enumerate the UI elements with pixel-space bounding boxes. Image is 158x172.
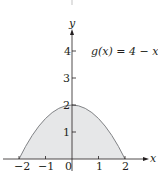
x-tick-label: 2 xyxy=(122,160,129,172)
function-label-main: g(x) = 4 − x xyxy=(91,45,158,58)
y-tick-label: 4 xyxy=(64,45,71,58)
function-label: g(x) = 4 − x2 xyxy=(91,45,158,58)
y-tick-label: 2 xyxy=(63,99,70,112)
x-tick-label: 1 xyxy=(96,160,103,172)
y-tick-label: 1 xyxy=(63,126,70,139)
x-tick-label: −2 xyxy=(14,160,30,172)
x-axis-label: x xyxy=(150,152,157,165)
y-tick-label: 3 xyxy=(63,72,70,85)
chart: −2 −1 0 1 2 1 2 3 4 x y g(x) = 4 − x2 xyxy=(0,0,158,172)
x-tick-label: 0 xyxy=(65,160,72,172)
y-axis-label: y xyxy=(68,17,76,30)
x-tick-label: −1 xyxy=(38,160,54,172)
x-axis-arrow-icon xyxy=(143,157,149,161)
